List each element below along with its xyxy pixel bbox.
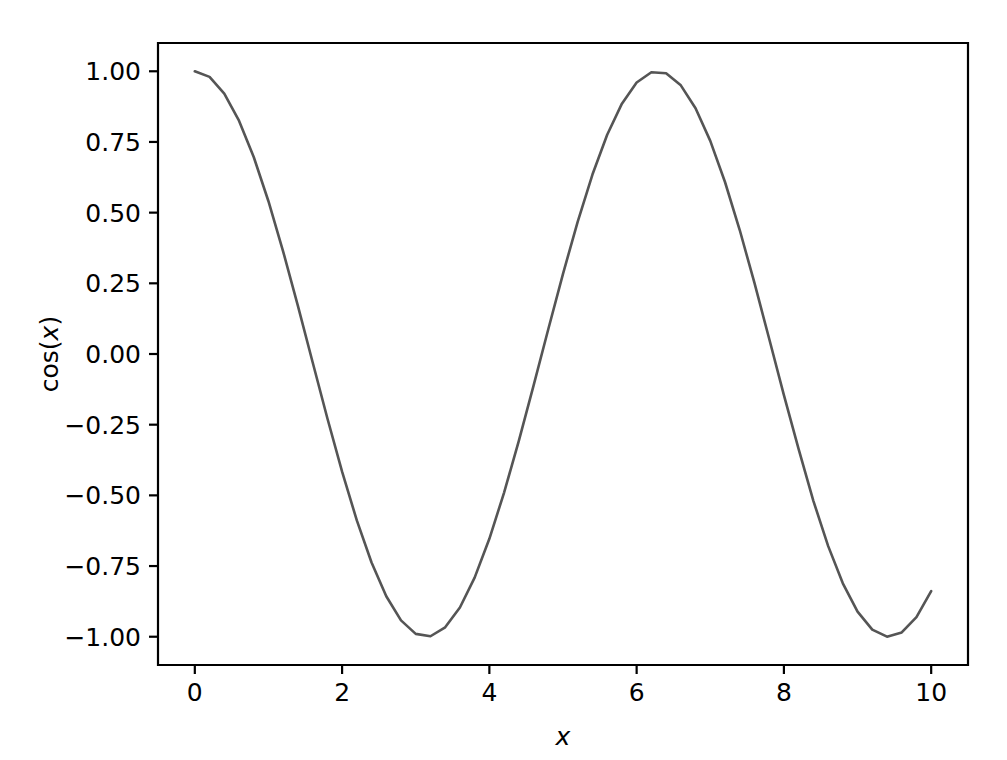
y-tick-label: 0.50: [85, 199, 141, 228]
y-tick-label: −0.75: [64, 552, 141, 581]
line-chart: 0246810 −1.00−0.75−0.50−0.250.000.250.50…: [0, 0, 1007, 760]
x-tick-label: 10: [915, 678, 947, 707]
y-tick-label: −1.00: [64, 623, 141, 652]
y-tick-label: −0.25: [64, 411, 141, 440]
y-tick-label: −0.50: [64, 481, 141, 510]
axes-background: [158, 43, 968, 665]
x-tick-label: 4: [481, 678, 497, 707]
y-tick-label: 0.25: [85, 269, 141, 298]
x-tick-label: 8: [776, 678, 792, 707]
y-tick-label: 0.00: [85, 340, 141, 369]
y-axis-label: cos(x): [35, 316, 64, 392]
y-tick-label: 0.75: [85, 128, 141, 157]
x-axis-label: x: [555, 722, 571, 751]
x-tick-label: 6: [629, 678, 645, 707]
x-tick-label: 2: [334, 678, 350, 707]
y-tick-label: 1.00: [85, 57, 141, 86]
figure-canvas: 0246810 −1.00−0.75−0.50−0.250.000.250.50…: [0, 0, 1007, 760]
x-tick-label: 0: [187, 678, 203, 707]
